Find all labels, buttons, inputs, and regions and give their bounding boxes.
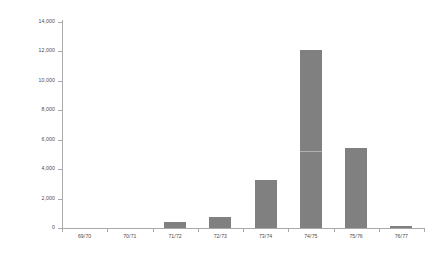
y-axis-tick-label: 4,000	[0, 166, 55, 174]
x-axis-tick	[153, 228, 154, 232]
y-axis-tick-label: 2,000	[0, 196, 55, 204]
y-axis-tick-label: 14,000	[0, 19, 55, 27]
x-axis-tick	[243, 228, 244, 232]
y-axis-tick-label: 10,000	[0, 78, 55, 86]
x-axis-tick	[379, 228, 380, 232]
y-axis-tick-label-text: 10,000	[39, 78, 55, 83]
bar-chart: 02,0004,0006,0008,00010,00012,00014,000 …	[0, 0, 445, 263]
x-axis-tick-label: 75/76	[331, 234, 381, 239]
x-axis-tick	[424, 228, 425, 232]
x-axis-tick	[334, 228, 335, 232]
y-axis-tick-label-text: 2,000	[42, 196, 55, 201]
bar	[345, 148, 367, 228]
y-axis-tick-label-text: 8,000	[42, 107, 55, 112]
x-axis-tick	[62, 228, 63, 232]
x-axis-tick-label: 76/77	[376, 234, 426, 239]
x-axis-tick-label: 72/73	[195, 234, 245, 239]
y-axis-tick-label-text: 0	[52, 225, 55, 230]
y-axis-tick-label: 12,000	[0, 48, 55, 56]
bar	[209, 217, 231, 228]
y-axis-tick-label-text: 12,000	[39, 48, 55, 53]
bar-seam-artifact	[300, 151, 322, 152]
bar	[255, 180, 277, 228]
bar	[390, 226, 412, 228]
x-axis-tick-label: 70/71	[105, 234, 155, 239]
y-axis-tick-label: 8,000	[0, 107, 55, 115]
y-axis-tick-label: 6,000	[0, 137, 55, 145]
bar	[300, 50, 322, 228]
x-axis-tick	[198, 228, 199, 232]
x-axis-tick	[288, 228, 289, 232]
x-axis-tick-label: 74/75	[286, 234, 336, 239]
x-axis-tick-label: 69/70	[60, 234, 110, 239]
plot-area	[62, 22, 424, 228]
x-axis-tick-label: 73/74	[241, 234, 291, 239]
y-axis-tick-label: 0	[0, 225, 55, 233]
y-axis-tick-label-text: 6,000	[42, 137, 55, 142]
bar	[164, 222, 186, 228]
y-axis-tick-label-text: 14,000	[39, 19, 55, 24]
x-axis-tick-label: 71/72	[150, 234, 200, 239]
y-axis-tick-label-text: 4,000	[42, 166, 55, 171]
x-axis-tick	[107, 228, 108, 232]
